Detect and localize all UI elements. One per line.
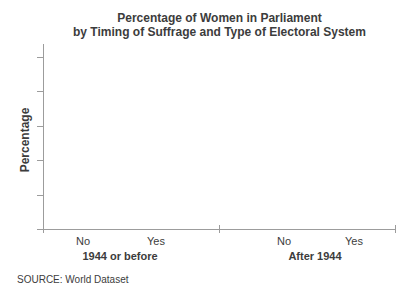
x-category-label: Yes <box>147 235 165 247</box>
x-group-label-1944-or-before: 1944 or before <box>82 250 157 262</box>
y-axis-tick <box>37 57 44 58</box>
chart-title-line2: by Timing of Suffrage and Type of Electo… <box>43 25 396 39</box>
chart-title: Percentage of Women in Parliament by Tim… <box>43 11 396 39</box>
y-axis-tick <box>37 195 44 196</box>
x-axis-tick <box>219 225 220 233</box>
x-category-label: Yes <box>345 235 363 247</box>
x-category-label: No <box>76 235 90 247</box>
x-category-label: No <box>277 235 291 247</box>
chart: Percentage of Women in Parliament by Tim… <box>0 0 416 297</box>
source-note: SOURCE: World Dataset <box>17 274 129 285</box>
y-axis-line <box>43 44 44 233</box>
chart-title-line1: Percentage of Women in Parliament <box>43 11 396 25</box>
y-axis-tick <box>37 229 44 230</box>
y-axis-tick <box>37 91 44 92</box>
y-axis-tick <box>37 126 44 127</box>
y-axis-label: Percentage <box>18 108 32 173</box>
x-axis-line <box>37 229 396 230</box>
y-axis-tick <box>37 160 44 161</box>
x-group-label-after-1944: After 1944 <box>288 250 341 262</box>
x-axis-tick <box>395 225 396 233</box>
